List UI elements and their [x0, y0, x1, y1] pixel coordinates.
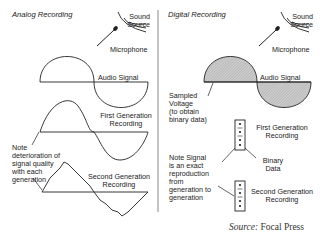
analog-title: Analog Recording: [12, 11, 72, 19]
digital-title: Digital Recording: [168, 11, 226, 19]
digital-sound-source-label: Sound Source: [289, 13, 313, 29]
label-line: Data: [258, 165, 288, 173]
digital-second-gen-label: Second Generation Recording: [248, 188, 316, 204]
label-line: Recording: [248, 196, 316, 204]
analog-microphone-icon: [97, 25, 119, 46]
label-line: Recording: [96, 120, 156, 128]
digital-first-gen-label: First Generation Recording: [250, 124, 314, 140]
digital-first-gen-binary-strip: [235, 120, 245, 150]
diagram-graphics: [0, 0, 324, 243]
analog-sound-source-label: Sound Source: [126, 13, 150, 29]
digital-sampled-audio-signal: [204, 57, 311, 108]
digital-note-pointer-2: [218, 186, 234, 196]
digital-note-label: Note Signal is an exact reproduction fro…: [169, 154, 211, 202]
analog-microphone-label: Microphone: [110, 46, 148, 54]
digital-microphone-label: Microphone: [272, 46, 310, 54]
digital-sampled-pointer: [208, 83, 213, 96]
label-line: binary data): [169, 116, 207, 124]
label-line: Recording: [86, 181, 152, 189]
digital-second-gen-binary-strip: [235, 181, 245, 211]
digital-note-pointer-1: [222, 148, 235, 162]
digital-audio-signal-label: Audio Signal: [260, 74, 300, 82]
source-prefix: Source:: [229, 222, 258, 232]
analog-note-label: Note deterioration of signal quality wit…: [12, 144, 60, 184]
analog-audio-signal-wave: [40, 57, 148, 108]
label-line: generation: [12, 176, 60, 184]
source-name: Focal Press: [258, 222, 304, 232]
digital-microphone-icon: [259, 25, 281, 46]
source-credit: Source: Focal Press: [229, 222, 304, 232]
digital-sampled-voltage-label: Sampled Voltage (to obtain binary data): [169, 92, 207, 124]
label-line: Source: [126, 21, 150, 29]
analog-audio-signal-label: Audio Signal: [98, 74, 138, 82]
label-line: Recording: [250, 132, 314, 140]
analog-second-gen-label: Second Generation Recording: [86, 173, 152, 189]
label-line: Source: [289, 21, 313, 29]
label-line: generation: [169, 194, 211, 202]
digital-binary-pointer: [245, 148, 256, 158]
digital-binary-data-label: Binary Data: [258, 157, 288, 173]
analog-first-gen-label: First Generation Recording: [96, 112, 156, 128]
